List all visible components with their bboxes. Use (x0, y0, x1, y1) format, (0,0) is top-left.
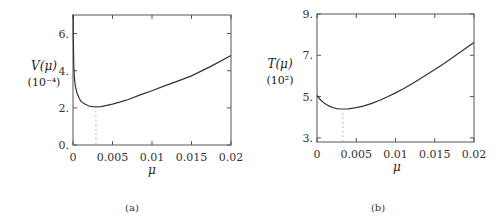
panel-a-y-axis-label: V(μ) (31, 59, 57, 73)
panel-a-x-tick-label: 0 (70, 151, 77, 164)
figure: 00.0050.010.0150.02 0.2.4.6. V(μ) (10⁻⁴)… (0, 0, 498, 224)
panel-a-x-tick-label: 0.015 (176, 151, 208, 164)
panel-a-caption: (a) (125, 202, 139, 213)
panel-a-x-axis-label: μ (148, 163, 156, 177)
panel-a-y-tick-label: 6. (59, 28, 70, 41)
panel-a-curve-v (73, 15, 231, 107)
panel-a-x-tick-label: 0.005 (97, 151, 129, 164)
panel-b-x-axis-label: μ (393, 160, 401, 174)
panel-b-x-tick-label: 0.005 (341, 148, 373, 161)
panel-b-x-tick-label: 0.015 (419, 148, 451, 161)
panel-b-y-tick-label: 7. (303, 49, 314, 62)
panel-a-chart: 00.0050.010.0150.02 0.2.4.6. V(μ) (10⁻⁴)… (28, 15, 244, 213)
panel-a-y-ticks: 0.2.4.6. (59, 28, 232, 152)
panel-b-chart: 00.0050.010.0150.02 3.5.7.9. T(μ) (10²) … (267, 8, 487, 213)
panel-b-y-axis-label: T(μ) (267, 57, 292, 71)
panel-a-x-tick-label: 0.02 (219, 151, 244, 164)
panel-b-x-ticks: 00.0050.010.0150.02 (314, 14, 487, 161)
panel-b-y-axis-unit: (10²) (267, 74, 294, 87)
panel-b-curve-t (317, 43, 474, 110)
panel-b-plot-frame (317, 14, 474, 142)
panel-b-y-tick-label: 3. (303, 132, 314, 145)
panel-b-caption: (b) (371, 202, 385, 213)
panel-b-x-tick-label: 0.02 (462, 148, 487, 161)
panel-a-y-tick-label: 2. (59, 102, 70, 115)
panel-a-y-tick-label: 0. (59, 139, 70, 152)
panel-a-plot-frame (73, 15, 231, 145)
panel-a-y-axis-unit: (10⁻⁴) (28, 76, 61, 89)
panel-b-x-tick-label: 0 (314, 148, 321, 161)
panel-b-y-tick-label: 5. (303, 91, 314, 104)
panel-b-y-tick-label: 9. (303, 8, 314, 21)
panel-b-y-ticks: 3.5.7.9. (303, 8, 475, 145)
